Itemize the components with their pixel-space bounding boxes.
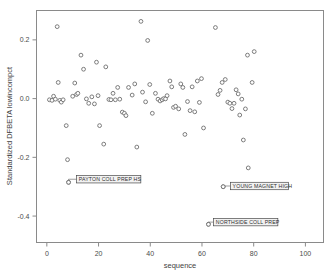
data-point — [197, 101, 201, 105]
data-point — [181, 86, 185, 90]
callout-label: NORTHSIDE COLL PREP — [216, 219, 280, 225]
data-point — [111, 91, 115, 95]
data-point — [90, 95, 94, 99]
annotated-data-point — [207, 222, 211, 226]
y-tick-label: -0.4 — [17, 213, 29, 220]
data-point — [53, 97, 57, 101]
data-point — [66, 158, 70, 162]
data-point — [216, 93, 220, 97]
data-point — [241, 138, 245, 142]
data-point — [98, 124, 102, 128]
data-point — [146, 39, 150, 43]
x-tick-label: 80 — [250, 250, 258, 257]
data-point — [165, 94, 169, 98]
data-point — [116, 86, 120, 90]
data-point — [214, 26, 218, 30]
data-point — [228, 101, 232, 105]
x-tick-label: 40 — [146, 250, 154, 257]
data-point — [95, 60, 99, 64]
data-point — [135, 145, 139, 149]
data-point — [141, 90, 145, 94]
data-point — [240, 97, 244, 101]
y-tick-label: 0.2 — [20, 36, 30, 43]
x-tick-label: 20 — [95, 250, 103, 257]
annotated-data-point — [221, 185, 225, 189]
data-point — [93, 102, 97, 106]
x-tick-label: 0 — [45, 250, 49, 257]
data-point — [246, 166, 250, 170]
data-point — [186, 100, 190, 104]
data-point — [113, 98, 117, 102]
data-point — [87, 101, 91, 105]
scatter-chart: 020406080100 0.20.0-0.2-0.4 PAYTON COLL … — [0, 0, 336, 273]
data-point — [234, 88, 238, 92]
data-point — [220, 81, 224, 85]
data-point — [124, 114, 128, 118]
data-point — [154, 91, 158, 95]
data-point — [183, 133, 187, 137]
data-point — [218, 88, 222, 92]
data-point — [232, 101, 236, 105]
data-point — [104, 65, 108, 69]
data-point — [188, 109, 192, 113]
data-point — [202, 126, 206, 130]
data-point — [82, 67, 86, 71]
data-point — [109, 98, 113, 102]
y-axis-title: Standardized DFBETA lowincompct — [5, 66, 14, 185]
chart-background — [0, 0, 336, 273]
data-point — [130, 93, 134, 97]
data-point — [230, 107, 234, 111]
data-point — [244, 107, 248, 111]
data-point — [190, 85, 194, 89]
data-point — [133, 82, 137, 86]
callout-label: PAYTON COLL PREP HS — [79, 176, 142, 182]
data-point — [102, 142, 106, 146]
data-point — [55, 25, 59, 29]
annotated-data-point — [67, 180, 71, 184]
data-point — [64, 124, 68, 128]
data-point — [170, 85, 174, 89]
x-axis-title: sequence — [164, 261, 197, 270]
data-point — [177, 107, 181, 111]
data-point — [246, 53, 250, 57]
data-point — [76, 91, 80, 95]
callout-label: YOUNG MAGNET HIGH — [233, 183, 293, 189]
data-point — [250, 81, 254, 85]
data-point — [85, 97, 89, 101]
data-point — [127, 86, 131, 90]
data-point — [238, 113, 242, 117]
data-point — [144, 100, 148, 104]
x-tick-label: 60 — [198, 250, 206, 257]
plot-canvas: 020406080100 0.20.0-0.2-0.4 PAYTON COLL … — [0, 0, 336, 273]
data-point — [252, 50, 256, 54]
data-point — [223, 78, 227, 82]
data-point — [96, 94, 100, 98]
x-tick-label: 100 — [300, 250, 312, 257]
y-tick-label: -0.2 — [17, 154, 29, 161]
data-point — [79, 53, 83, 57]
data-point — [200, 77, 204, 81]
y-tick-label: 0.0 — [20, 95, 30, 102]
data-point — [168, 79, 172, 83]
data-point — [73, 81, 77, 85]
data-point — [195, 79, 199, 83]
data-point — [148, 83, 152, 87]
data-point — [150, 111, 154, 115]
data-point — [139, 19, 143, 23]
data-point — [193, 110, 197, 114]
data-point — [56, 81, 60, 85]
data-point — [61, 98, 65, 102]
data-point — [118, 97, 122, 101]
data-point — [236, 92, 240, 96]
data-point — [71, 94, 75, 98]
